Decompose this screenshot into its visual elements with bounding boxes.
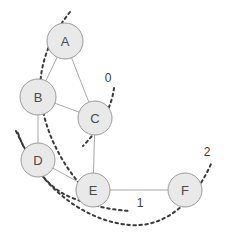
- graph-diagram: ABCDEF 012: [0, 0, 229, 237]
- node-e-label: E: [89, 183, 98, 198]
- node-d[interactable]: D: [21, 143, 55, 177]
- node-f[interactable]: F: [168, 173, 202, 207]
- node-b[interactable]: B: [20, 79, 56, 115]
- edge-d-e: [53, 168, 78, 182]
- node-a-label: A: [61, 34, 70, 49]
- edge-a-c: [72, 58, 89, 102]
- node-b-label: B: [34, 90, 43, 105]
- node-a[interactable]: A: [47, 23, 83, 59]
- node-d-label: D: [33, 153, 42, 168]
- cut-2-label: 2: [204, 145, 211, 159]
- node-c-label: C: [90, 111, 99, 126]
- edge-b-c: [55, 103, 79, 112]
- edge-a-b: [46, 57, 57, 81]
- graph-canvas: ABCDEF 012: [0, 0, 229, 237]
- cut-0-label: 0: [105, 71, 112, 85]
- cut-1-label: 1: [137, 196, 144, 210]
- node-c[interactable]: C: [78, 101, 112, 135]
- node-f-label: F: [181, 183, 189, 198]
- edge-c-e: [93, 135, 94, 173]
- node-e[interactable]: E: [76, 173, 110, 207]
